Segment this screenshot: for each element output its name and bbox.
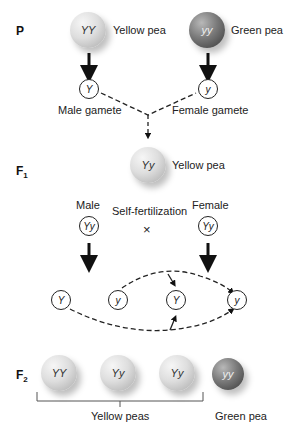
pea-green-parent: yy — [189, 12, 225, 48]
male-gamete: Y — [79, 79, 99, 99]
f1-female-genotype: Yy — [198, 216, 218, 236]
mendel-monohybrid-cross-diagram: P F1 F2 YY Yellow pea yy Green pea Y Mal… — [0, 0, 288, 433]
pea-f2-3: Yy — [159, 355, 195, 391]
arc-Y-to-y — [70, 309, 232, 331]
pea-f1: Yy — [130, 147, 166, 183]
arc-y-to-y — [122, 271, 232, 292]
self-fertilization-label: Self-fertilization — [112, 205, 187, 217]
yellow-peas-label: Yellow peas — [91, 410, 149, 422]
green-parent-label: Green pea — [231, 24, 283, 36]
green-pea-label: Green pea — [215, 410, 267, 422]
generation-f2-label: F2 — [16, 368, 28, 384]
f1-gamete-3: Y — [166, 290, 186, 310]
female-gamete: y — [198, 79, 218, 99]
generation-f1-label: F1 — [16, 164, 28, 180]
pea-f2-4: yy — [212, 358, 244, 390]
cross-symbol: × — [143, 222, 151, 237]
female-gamete-label: Female gamete — [172, 104, 248, 116]
generation-p-label: P — [16, 24, 24, 38]
yellow-parent-label: Yellow pea — [113, 24, 166, 36]
pea-f2-2: Yy — [100, 355, 136, 391]
f1-male-genotype: Yy — [79, 216, 99, 236]
f1-male-label: Male — [76, 199, 100, 211]
male-gamete-label: Male gamete — [58, 104, 122, 116]
f1-gamete-1: Y — [51, 290, 71, 310]
arc-Y-to-Y — [170, 318, 175, 330]
arc-y-to-Y — [168, 274, 174, 284]
f1-label: Yellow pea — [172, 159, 225, 171]
f1-gamete-2: y — [108, 290, 128, 310]
pea-yellow-parent: YY — [70, 12, 106, 48]
f1-gamete-4: y — [227, 290, 247, 310]
yellow-bracket — [37, 392, 203, 401]
pea-f2-1: YY — [41, 355, 77, 391]
f1-female-label: Female — [192, 199, 229, 211]
